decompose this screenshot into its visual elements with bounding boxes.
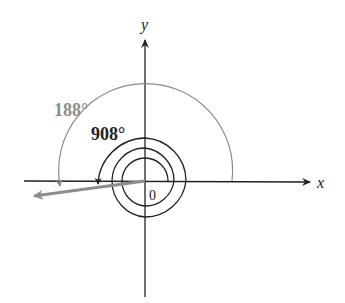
angle-diagram: y x 0 188° 908° <box>0 0 345 303</box>
angle-908-label: 908° <box>91 124 125 144</box>
y-axis-label: y <box>139 16 149 34</box>
origin-label: 0 <box>149 188 156 203</box>
angle-188-label: 188° <box>54 100 88 120</box>
x-axis-label: x <box>316 174 324 191</box>
terminal-ray <box>34 181 145 196</box>
spiral-908 <box>98 138 186 217</box>
x-axis <box>24 181 310 182</box>
